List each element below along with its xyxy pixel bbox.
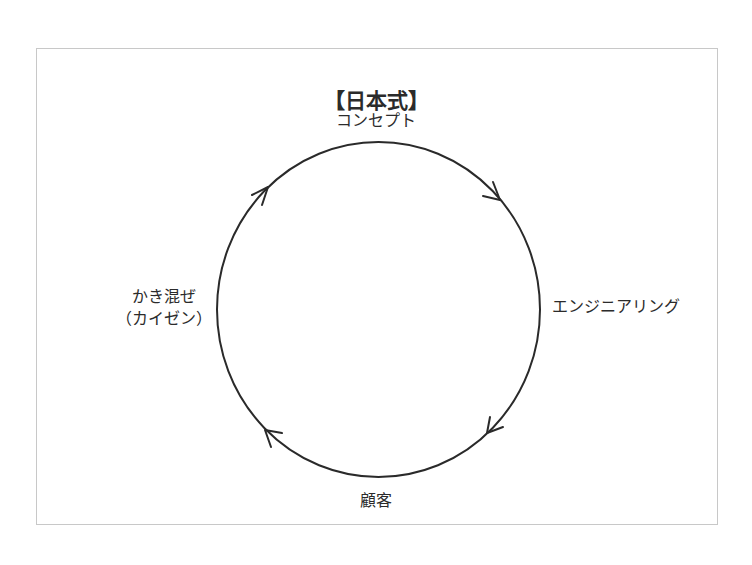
cycle-diagram — [0, 0, 752, 565]
